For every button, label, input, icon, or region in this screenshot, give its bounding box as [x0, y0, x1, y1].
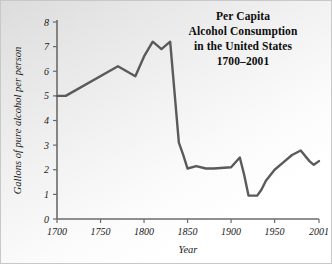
x-tick-label: 2001	[309, 226, 329, 237]
y-tick-label: 4	[44, 115, 49, 126]
x-tick-label: 1950	[265, 226, 285, 237]
chart-title-line-4: 1700–2001	[168, 54, 318, 69]
chart-figure: 1700175018001850190019502001 012345678 Y…	[0, 0, 332, 264]
y-tick-label: 5	[44, 90, 49, 101]
y-axis	[53, 20, 57, 219]
chart-title-line-2: Alcohol Consumption	[168, 24, 318, 39]
x-axis	[57, 219, 319, 223]
y-tick-labels: 012345678	[43, 17, 50, 225]
y-axis-title: Gallons of pure alcohol per person	[12, 47, 23, 194]
x-axis-title: Year	[179, 244, 199, 255]
x-tick-label: 1850	[178, 226, 198, 237]
x-tick-label: 1750	[91, 226, 111, 237]
chart-title-line-3: in the United States	[168, 39, 318, 54]
y-tick-label: 2	[44, 164, 49, 175]
chart-title: Per Capita Alcohol Consumption in the Un…	[168, 9, 318, 69]
chart-title-line-1: Per Capita	[168, 9, 318, 24]
y-tick-label: 0	[44, 214, 49, 225]
x-tick-labels: 1700175018001850190019502001	[47, 226, 329, 237]
y-tick-label: 6	[44, 66, 49, 77]
x-tick-label: 1900	[221, 226, 241, 237]
y-tick-label: 3	[43, 140, 49, 151]
x-tick-label: 1800	[134, 226, 154, 237]
y-tick-label: 7	[44, 41, 50, 52]
y-tick-label: 1	[44, 189, 49, 200]
x-tick-label: 1700	[47, 226, 67, 237]
y-tick-label: 8	[44, 17, 49, 28]
